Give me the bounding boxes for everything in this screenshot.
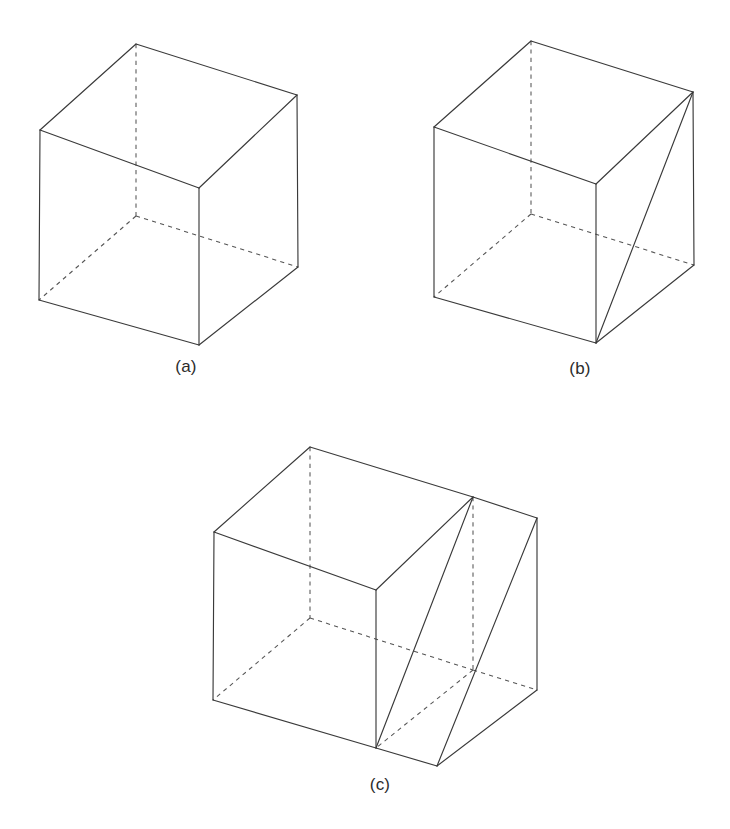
caption-b: (b): [569, 359, 590, 378]
canvas-background: [0, 0, 730, 829]
wireframe-figure-canvas: (a) (b) (c): [0, 0, 730, 829]
caption-a: (a): [175, 357, 196, 376]
caption-c: (c): [370, 775, 390, 794]
figure-root: (a) (b) (c): [0, 0, 730, 829]
